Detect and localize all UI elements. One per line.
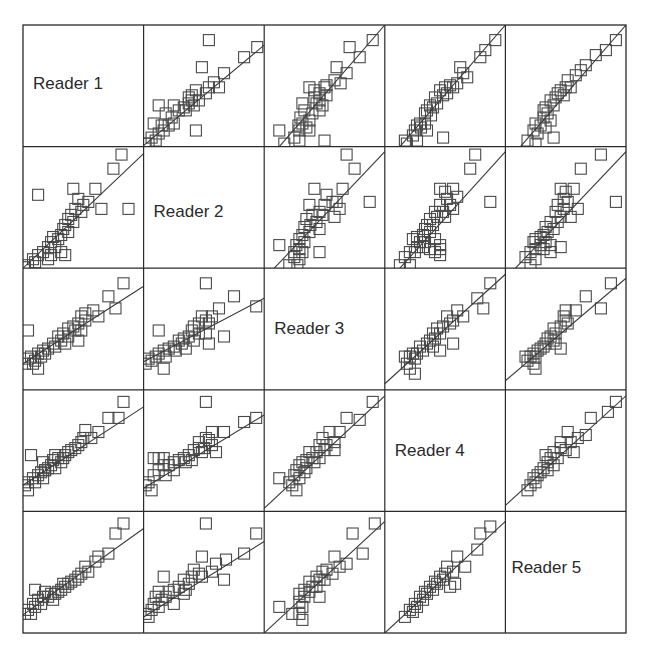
square-marker [23, 325, 34, 336]
square-marker [108, 163, 119, 174]
square-marker [568, 183, 579, 194]
scatter-cell-r4-c1 [20, 396, 144, 495]
regression-line [515, 152, 626, 269]
diagonal-label-reader-1: Reader 1 [33, 74, 103, 93]
square-marker [123, 203, 134, 214]
square-marker [196, 551, 207, 562]
regression-line [400, 25, 506, 147]
square-marker [610, 196, 621, 207]
square-marker [90, 183, 101, 194]
regression-line [279, 25, 385, 147]
scatterplot-matrix: Reader 1 Reader 2 Reader 3 Reader 4 Read… [0, 0, 650, 660]
square-marker [530, 138, 541, 149]
square-marker [572, 433, 583, 444]
square-marker [30, 584, 41, 595]
square-marker [46, 250, 57, 261]
square-marker [448, 338, 459, 349]
square-marker [33, 189, 44, 200]
regression-line [23, 407, 144, 485]
square-marker [153, 100, 164, 111]
square-marker [80, 308, 91, 319]
square-marker [522, 135, 533, 146]
square-marker [600, 45, 611, 56]
square-marker [580, 430, 591, 441]
square-marker [304, 125, 315, 136]
scatter-cell-r3-c4 [385, 274, 506, 384]
square-marker [158, 363, 169, 374]
scatter-cell-r5-c2 [140, 518, 264, 622]
scatter-cell-r4-c2 [140, 396, 264, 495]
square-marker [472, 293, 483, 304]
square-marker [341, 412, 352, 423]
square-marker [475, 528, 486, 539]
regression-line [23, 528, 144, 614]
square-marker [309, 183, 320, 194]
square-marker [555, 242, 566, 253]
square-marker [203, 338, 214, 349]
square-marker [319, 135, 330, 146]
square-marker [76, 311, 87, 322]
square-marker [335, 78, 346, 89]
diagonal-label-reader-5: Reader 5 [511, 558, 581, 577]
square-marker [203, 35, 214, 46]
regression-line [144, 542, 265, 617]
square-marker [118, 518, 129, 529]
scatter-cell-r5-c1 [20, 518, 144, 619]
square-marker [329, 551, 340, 562]
square-marker [357, 548, 368, 559]
diagonal-labels: Reader 1 Reader 2 Reader 3 Reader 4 Read… [33, 74, 581, 577]
square-marker [214, 303, 225, 314]
square-marker [485, 196, 496, 207]
square-marker [562, 196, 573, 207]
square-marker [219, 331, 230, 342]
square-marker [200, 396, 211, 407]
regression-line [264, 521, 385, 633]
square-marker [572, 203, 583, 214]
square-marker [470, 149, 481, 160]
square-marker [26, 450, 37, 461]
square-marker [200, 278, 211, 289]
square-marker [211, 447, 222, 458]
square-marker [118, 278, 129, 289]
square-marker [575, 163, 586, 174]
square-marker [580, 291, 591, 302]
square-marker [196, 311, 207, 322]
square-marker [595, 303, 606, 314]
square-marker [239, 52, 250, 63]
square-marker [219, 427, 230, 438]
square-marker [211, 558, 222, 569]
scatter-cell-r4-c3 [264, 396, 385, 509]
square-marker [103, 291, 114, 302]
square-marker [60, 250, 71, 261]
scatter-cell-r5-c3 [264, 518, 385, 633]
regression-line [385, 521, 506, 633]
regression-line [505, 278, 626, 381]
square-marker [334, 427, 345, 438]
square-marker [415, 341, 426, 352]
square-marker [73, 335, 84, 346]
scatter-cell-r5-c4 [385, 521, 506, 633]
square-marker [314, 591, 325, 602]
regression-line [144, 45, 265, 145]
square-marker [367, 396, 378, 407]
square-marker [304, 199, 315, 210]
square-marker [349, 163, 360, 174]
square-marker [585, 412, 596, 423]
scatter-cell-r4-c5 [505, 396, 626, 506]
regression-line [264, 396, 385, 509]
square-marker [438, 132, 449, 143]
square-marker [435, 345, 446, 356]
diagonal-label-reader-2: Reader 2 [154, 202, 224, 221]
square-marker [465, 163, 476, 174]
square-marker [562, 427, 573, 438]
square-marker [219, 574, 230, 585]
regression-line [23, 286, 144, 363]
square-marker [595, 149, 606, 160]
regression-line [505, 396, 626, 506]
square-marker [485, 521, 496, 532]
scatter-cell-r1-c2 [140, 35, 264, 150]
regression-line [23, 154, 144, 269]
square-marker [143, 611, 154, 622]
square-marker [110, 528, 121, 539]
scatter-cell-r1-c5 [520, 25, 626, 149]
